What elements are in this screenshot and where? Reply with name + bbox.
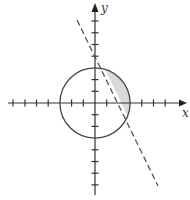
x-axis-label: x: [182, 106, 189, 120]
y-axis-label: y: [100, 1, 108, 15]
shaded-region: [77, 10, 180, 200]
diagram-canvas: x y: [0, 0, 190, 200]
y-axis-arrow-icon: [92, 3, 99, 12]
